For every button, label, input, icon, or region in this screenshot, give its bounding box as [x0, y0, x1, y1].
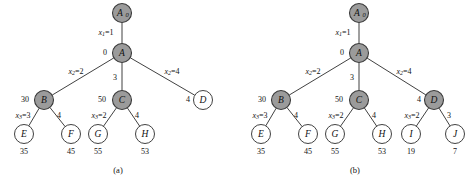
node-letter: G	[95, 129, 102, 139]
node-H[interactable]: H	[136, 125, 155, 144]
node-letter: D	[430, 95, 438, 105]
panel-b: A0ABCDEFGHIJ030504x1=1x2=2x2=4x3=3x3=2x3…	[251, 4, 464, 175]
edge-label-x1-eq-1: x1=1	[334, 28, 350, 38]
edge-label-x3-eq-3: x3=3	[251, 111, 267, 121]
node-letter: C	[119, 95, 126, 105]
edge-a-A-to-a-B	[52, 58, 114, 95]
cost-C: 50	[98, 95, 106, 104]
edge-label-edge-c-3: 3	[113, 73, 117, 82]
node-J[interactable]: J	[446, 125, 465, 144]
node-letter: G	[332, 129, 339, 139]
edge-label-x3-eq-2b: x3=2	[403, 111, 419, 121]
node-letter: B	[278, 95, 284, 105]
value-H: 53	[378, 147, 386, 156]
node-letter: C	[356, 95, 363, 105]
node-letter: A	[353, 8, 360, 18]
node-letter: F	[67, 129, 74, 139]
value-I: 19	[407, 147, 415, 156]
edge-a-A-to-a-D	[130, 58, 195, 95]
value-J: 7	[453, 147, 457, 156]
edge-label-x3-eq-3: x3=3	[14, 111, 30, 121]
node-D[interactable]: D	[194, 91, 213, 110]
edge-label-x2-eq-2: x2=2	[304, 67, 320, 77]
cost-C: 50	[335, 95, 343, 104]
edge-label-x2-eq-2: x2=2	[67, 67, 83, 77]
value-H: 53	[141, 147, 149, 156]
node-letter: H	[141, 129, 150, 139]
node-letter: F	[304, 129, 311, 139]
node-C[interactable]: C	[113, 91, 132, 110]
edge-label-edge-bf-4: 4	[57, 111, 61, 120]
edge-b-A-to-b-D	[367, 58, 426, 95]
cost-B: 30	[21, 95, 29, 104]
node-A[interactable]: A	[350, 44, 369, 63]
cost-D: 4	[186, 95, 190, 104]
edge-label-edge-dj-3: 3	[447, 111, 451, 120]
panel-caption: (b)	[350, 165, 360, 175]
node-letter: D	[199, 95, 207, 105]
edge-label-x2-eq-4: x2=4	[163, 67, 179, 77]
node-B[interactable]: B	[35, 91, 54, 110]
figure-container: A0ABCDEFGH030504x1=1x2=2x2=4x3=3x3=23443…	[0, 0, 476, 186]
search-tree-diagram: A0ABCDEFGH030504x1=1x2=2x2=4x3=3x3=23443…	[0, 0, 476, 186]
cost-A: 0	[340, 48, 344, 57]
value-G: 55	[331, 147, 339, 156]
node-C[interactable]: C	[350, 91, 369, 110]
node-I[interactable]: I	[402, 125, 421, 144]
edge-label-edge-ch-4: 4	[372, 111, 376, 120]
edge-b-A-to-b-B	[289, 58, 351, 95]
node-F[interactable]: F	[299, 125, 318, 144]
node-H[interactable]: H	[373, 125, 392, 144]
cost-A: 0	[103, 48, 107, 57]
value-G: 55	[94, 147, 102, 156]
node-A[interactable]: A	[113, 44, 132, 63]
node-letter: A	[116, 8, 123, 18]
node-F[interactable]: F	[62, 125, 81, 144]
node-G[interactable]: G	[326, 125, 345, 144]
node-letter: A	[355, 48, 362, 58]
node-G[interactable]: G	[89, 125, 108, 144]
edge-label-edge-c-3: 3	[350, 73, 354, 82]
node-letter: A	[118, 48, 125, 58]
cost-D: 4	[417, 95, 421, 104]
edge-label-x3-eq-2: x3=2	[327, 111, 343, 121]
value-E: 35	[20, 147, 28, 156]
node-E[interactable]: E	[15, 125, 34, 144]
node-B[interactable]: B	[272, 91, 291, 110]
node-D[interactable]: D	[425, 91, 444, 110]
edge-label-edge-ch-4: 4	[135, 111, 139, 120]
node-A0[interactable]: A0	[350, 4, 369, 23]
edge-label-edge-bf-4: 4	[294, 111, 298, 120]
node-letter: E	[257, 129, 264, 139]
cost-B: 30	[258, 95, 266, 104]
node-E[interactable]: E	[252, 125, 271, 144]
value-F: 45	[304, 147, 312, 156]
panel-caption: (a)	[113, 165, 123, 175]
node-letter: E	[20, 129, 27, 139]
node-A0[interactable]: A0	[113, 4, 132, 23]
value-F: 45	[67, 147, 75, 156]
edge-label-x2-eq-4: x2=4	[395, 67, 411, 77]
node-letter: H	[378, 129, 387, 139]
value-E: 35	[257, 147, 265, 156]
node-letter: B	[41, 95, 47, 105]
edge-label-x1-eq-1: x1=1	[97, 28, 113, 38]
panel-a: A0ABCDEFGH030504x1=1x2=2x2=4x3=3x3=23443…	[14, 4, 212, 175]
edge-label-x3-eq-2: x3=2	[90, 111, 106, 121]
